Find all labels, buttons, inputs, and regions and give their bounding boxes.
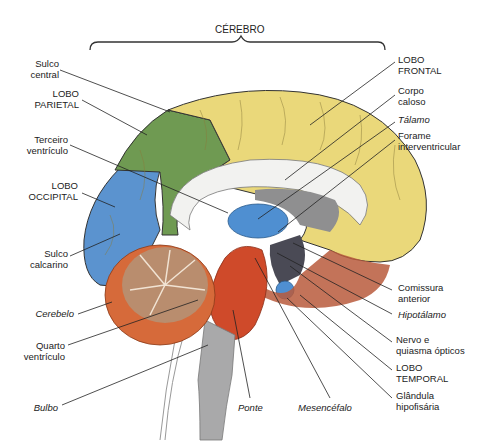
label-corpo-caloso: Corpo caloso bbox=[398, 85, 425, 107]
label-glandula-hipofisaria: Glândula hipofisária bbox=[396, 390, 439, 412]
label-sulco-central: Sulco central bbox=[25, 58, 59, 80]
cerebrum-brace bbox=[90, 36, 385, 50]
brainstem-pons bbox=[210, 246, 267, 340]
label-sulco-calcarino: Sulco calcarino bbox=[20, 248, 68, 270]
thalamus bbox=[228, 204, 288, 238]
label-nervo-quiasma: Nervo e quiasma ópticos bbox=[396, 334, 465, 356]
title-cerebrum: CÉREBRO bbox=[215, 24, 264, 35]
medulla bbox=[198, 320, 235, 440]
label-mesencefalo: Mesencéfalo bbox=[298, 402, 352, 413]
label-terceiro-ventriculo: Terceiro ventrículo bbox=[20, 134, 68, 156]
label-quarto-ventriculo: Quarto ventrículo bbox=[15, 340, 65, 362]
label-bulbo: Bulbo bbox=[20, 402, 58, 413]
label-comissura-anterior: Comissura anterior bbox=[398, 282, 443, 304]
label-lobo-occipital: LOBO OCCIPITAL bbox=[20, 180, 78, 202]
label-talamo: Tálamo bbox=[398, 114, 430, 125]
label-forame-interventricular: Forame interventricular bbox=[398, 130, 460, 152]
label-hipotalamo: Hipotálamo bbox=[398, 309, 446, 320]
label-lobo-temporal: LOBO TEMPORAL bbox=[396, 362, 448, 384]
label-lobo-frontal: LOBO FRONTAL bbox=[398, 54, 442, 76]
label-lobo-parietal: LOBO PARIETAL bbox=[25, 88, 79, 110]
label-ponte: Ponte bbox=[238, 402, 263, 413]
label-cerebelo: Cerebelo bbox=[20, 308, 74, 319]
